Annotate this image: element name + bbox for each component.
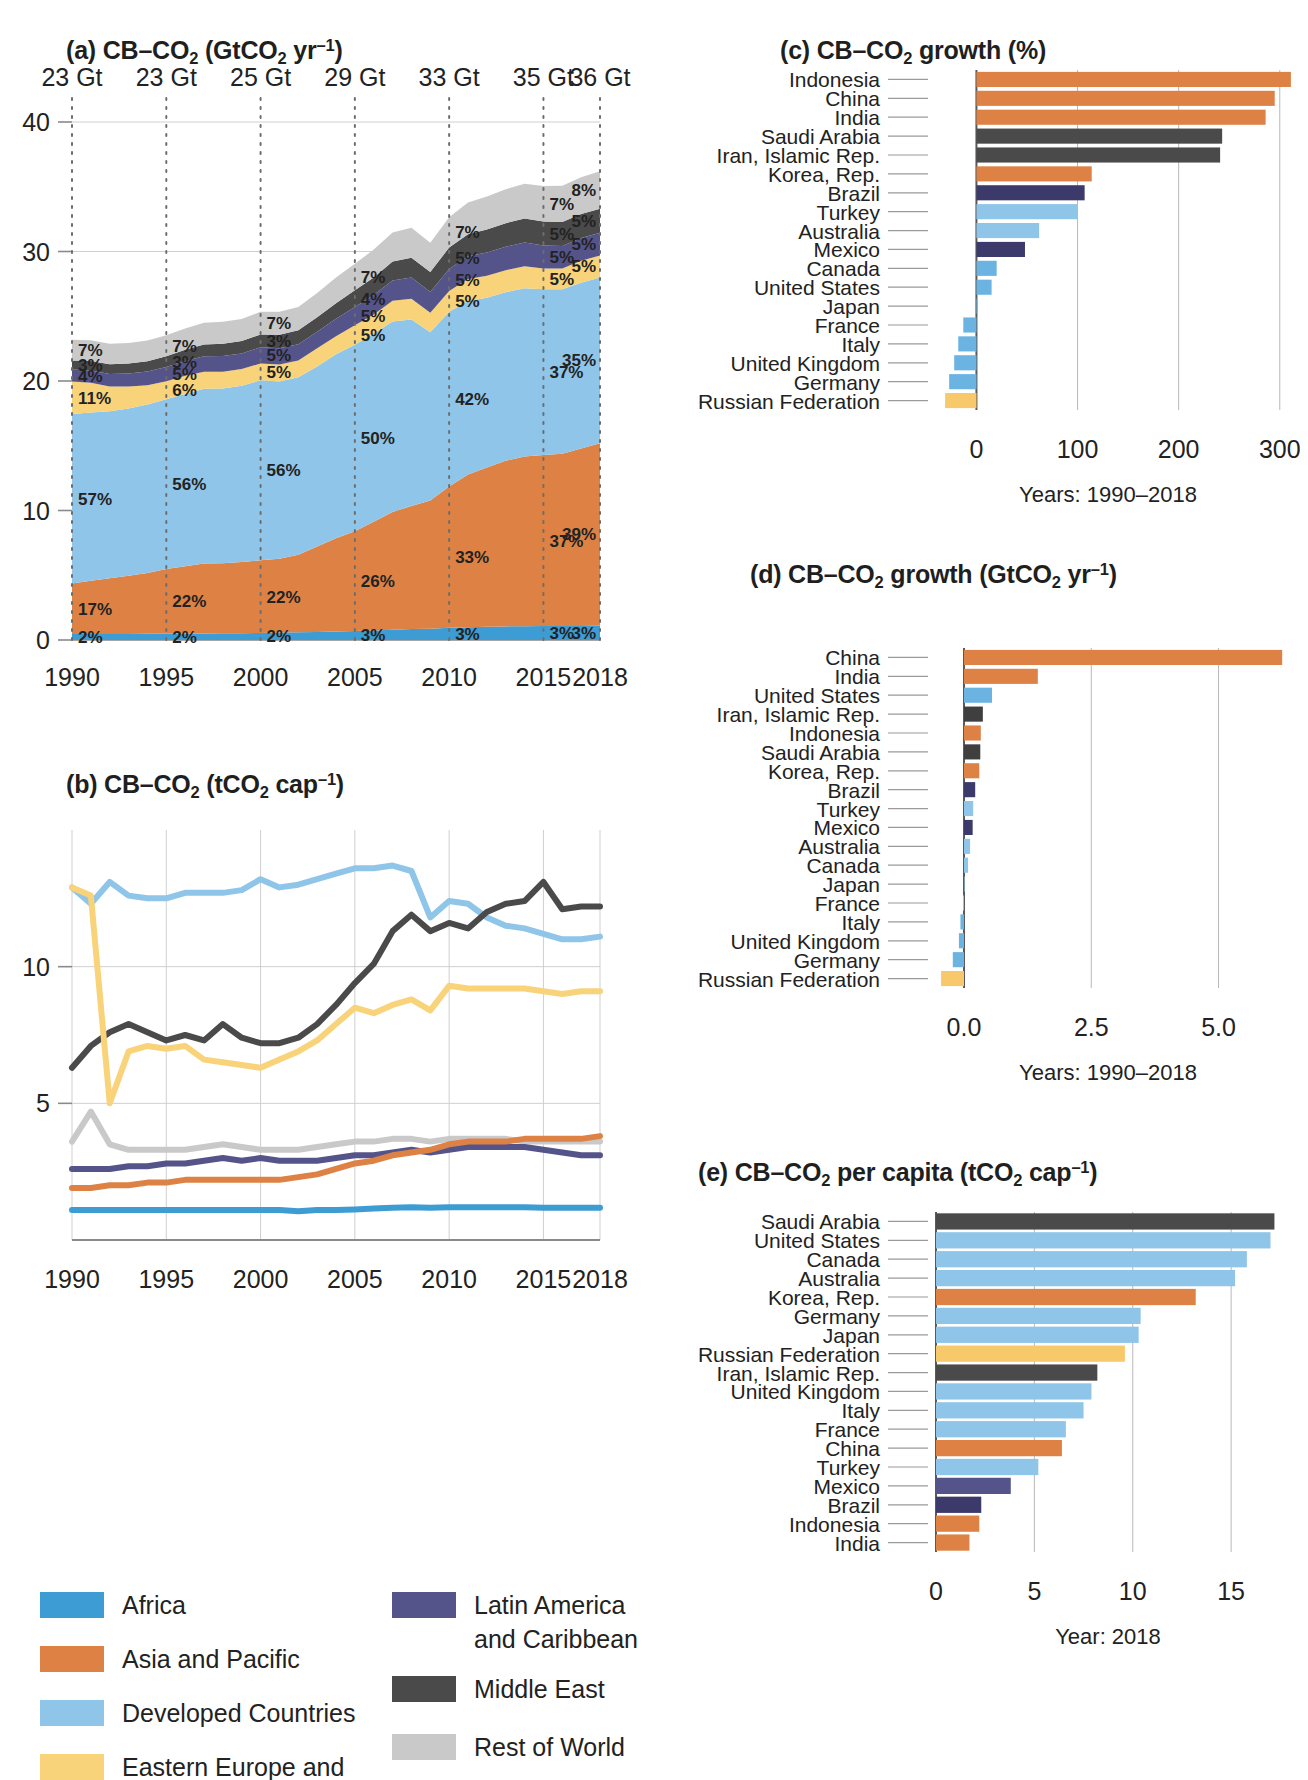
legend-swatch bbox=[392, 1676, 456, 1702]
axis-caption: Year: 2018 bbox=[1055, 1624, 1161, 1649]
bar bbox=[964, 763, 979, 778]
pct-label: 3% bbox=[361, 626, 386, 645]
pct-label: 7% bbox=[549, 195, 574, 214]
svg-text:0: 0 bbox=[36, 626, 50, 654]
pct-label: 26% bbox=[361, 572, 395, 591]
bar bbox=[949, 374, 976, 389]
pct-label: 22% bbox=[172, 592, 206, 611]
bar bbox=[964, 688, 992, 703]
total-label: 25 Gt bbox=[230, 63, 291, 91]
pct-label: 50% bbox=[361, 429, 395, 448]
bar bbox=[958, 336, 976, 351]
legend-label: Latin America bbox=[474, 1591, 626, 1619]
x-tick: 1995 bbox=[138, 663, 194, 691]
panel-b: (b) CB–CO2 (tCO2 cap–1) 5101990199520002… bbox=[0, 740, 640, 1360]
bar bbox=[963, 317, 976, 332]
bar bbox=[936, 1270, 1235, 1286]
x-tick: 2010 bbox=[421, 663, 477, 691]
bar bbox=[936, 1402, 1084, 1418]
bar bbox=[953, 952, 964, 967]
panel-e-plot: Saudi ArabiaUnited StatesCanadaAustralia… bbox=[640, 1190, 1308, 1760]
bar bbox=[976, 110, 1265, 125]
pct-label: 7% bbox=[267, 314, 292, 333]
bar bbox=[976, 129, 1222, 144]
line-rest-of-world bbox=[72, 1112, 600, 1150]
svg-text:10: 10 bbox=[22, 953, 50, 981]
x-tick: 10 bbox=[1119, 1577, 1147, 1605]
bar bbox=[941, 971, 964, 986]
x-tick: 300 bbox=[1259, 435, 1301, 463]
total-label: 36 Gt bbox=[569, 63, 630, 91]
panel-c: (c) CB–CO2 growth (%) IndonesiaChinaIndi… bbox=[640, 0, 1308, 540]
svg-text:30: 30 bbox=[22, 238, 50, 266]
legend-swatch bbox=[392, 1592, 456, 1618]
pct-label: 57% bbox=[78, 490, 112, 509]
pct-label: 7% bbox=[455, 223, 480, 242]
bar bbox=[936, 1251, 1247, 1267]
bar bbox=[976, 72, 1290, 87]
bar bbox=[936, 1289, 1196, 1305]
panel-e-title: (e) CB–CO2 per capita (tCO2 cap–1) bbox=[698, 1158, 1097, 1190]
pct-label: 2% bbox=[172, 628, 197, 647]
bar bbox=[960, 914, 964, 929]
bar bbox=[976, 204, 1077, 219]
pct-label: 5% bbox=[267, 363, 292, 382]
legend-swatch bbox=[40, 1646, 104, 1672]
legend-label: Asia and Pacific bbox=[122, 1645, 300, 1673]
legend-label: Middle East bbox=[474, 1675, 605, 1703]
pct-label: 5% bbox=[361, 326, 386, 345]
x-tick: 100 bbox=[1057, 435, 1099, 463]
pct-label: 5% bbox=[571, 257, 596, 276]
total-label: 23 Gt bbox=[41, 63, 102, 91]
bar bbox=[964, 839, 970, 854]
bar bbox=[936, 1497, 981, 1513]
x-tick: 2.5 bbox=[1074, 1013, 1109, 1041]
panel-e: (e) CB–CO2 per capita (tCO2 cap–1) Saudi… bbox=[640, 1110, 1308, 1768]
pct-label: 33% bbox=[455, 548, 489, 567]
panel-d-plot: ChinaIndiaUnited StatesIran, Islamic Rep… bbox=[640, 588, 1308, 1098]
bar bbox=[936, 1232, 1270, 1248]
bar bbox=[964, 877, 965, 892]
pct-label: 6% bbox=[172, 381, 197, 400]
panel-d: (d) CB–CO2 growth (GtCO2 yr–1) ChinaIndi… bbox=[640, 540, 1308, 1110]
pct-label: 56% bbox=[172, 475, 206, 494]
bar bbox=[976, 185, 1084, 200]
bar bbox=[936, 1421, 1066, 1437]
bar bbox=[954, 355, 976, 370]
bar bbox=[976, 242, 1025, 257]
bar bbox=[936, 1346, 1125, 1362]
legend-swatch bbox=[40, 1592, 104, 1618]
x-tick: 2015 bbox=[516, 663, 572, 691]
bar bbox=[964, 782, 975, 797]
pct-label: 7% bbox=[172, 337, 197, 356]
bar bbox=[936, 1516, 979, 1532]
pct-label: 7% bbox=[361, 268, 386, 287]
pct-label: 5% bbox=[571, 235, 596, 254]
pct-label: 7% bbox=[78, 341, 103, 360]
bar bbox=[976, 261, 996, 276]
legend-swatches: AfricaAsia and PacificDeveloped Countrie… bbox=[0, 1580, 640, 1780]
legend-label: Africa bbox=[122, 1591, 186, 1619]
pct-label: 35% bbox=[562, 351, 596, 370]
pct-label: 2% bbox=[78, 628, 103, 647]
pct-label: 5% bbox=[549, 270, 574, 289]
axis-caption: Years: 1990–2018 bbox=[1019, 1060, 1197, 1085]
bar bbox=[936, 1383, 1091, 1399]
legend-swatch bbox=[40, 1700, 104, 1726]
x-tick: 15 bbox=[1217, 1577, 1245, 1605]
pct-label: 17% bbox=[78, 600, 112, 619]
x-tick: 2010 bbox=[421, 1265, 477, 1293]
pct-label: 3% bbox=[455, 625, 480, 644]
bar bbox=[936, 1213, 1274, 1229]
pct-label: 56% bbox=[267, 461, 301, 480]
x-tick: 2015 bbox=[516, 1265, 572, 1293]
x-tick: 0 bbox=[929, 1577, 943, 1605]
pct-label: 42% bbox=[455, 390, 489, 409]
category-label: India bbox=[834, 1532, 880, 1555]
bar bbox=[964, 725, 981, 740]
bar bbox=[936, 1459, 1038, 1475]
bar bbox=[945, 393, 976, 408]
bar bbox=[936, 1534, 969, 1550]
x-tick: 2005 bbox=[327, 1265, 383, 1293]
pct-label: 2% bbox=[267, 627, 292, 646]
